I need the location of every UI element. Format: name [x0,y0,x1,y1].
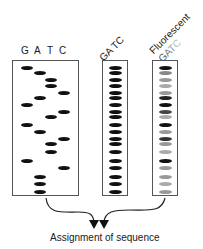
left-curved-arrow [46,198,94,222]
arrows [0,0,203,249]
left-arrowhead [89,220,99,229]
right-arrowhead [99,220,109,229]
caption: Assignment of sequence [50,232,160,243]
right-curved-arrow [104,198,165,222]
